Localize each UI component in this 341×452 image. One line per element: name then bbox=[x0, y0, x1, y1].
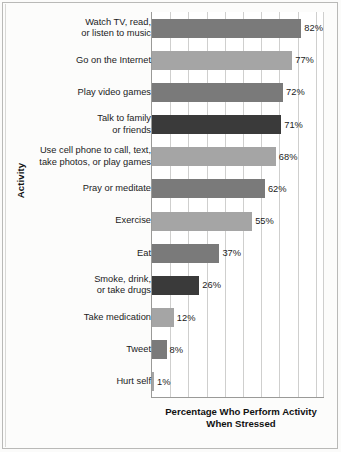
category-label: Play video games bbox=[31, 87, 151, 98]
category-label: Hurt self bbox=[31, 376, 151, 387]
category-label-line-1: Eat bbox=[31, 248, 151, 259]
bar bbox=[152, 276, 199, 295]
category-label-line-1: Take medication bbox=[31, 312, 151, 323]
category-label: Use cell phone to call, text,take photos… bbox=[31, 145, 151, 168]
category-label-line-1: Use cell phone to call, text, bbox=[31, 145, 151, 156]
category-label-line-1: Go on the Internet bbox=[31, 55, 151, 66]
category-label-line-2: or take drugs bbox=[31, 285, 151, 296]
bar-row: Tweet8% bbox=[0, 334, 341, 366]
bar-value-label: 26% bbox=[202, 280, 221, 290]
bar-value-label: 77% bbox=[295, 55, 314, 65]
category-label-line-2: or listen to music bbox=[31, 28, 151, 39]
bar bbox=[152, 212, 252, 231]
category-label: Take medication bbox=[31, 312, 151, 323]
bar bbox=[152, 147, 276, 166]
bar-group: 8% bbox=[152, 340, 183, 359]
bar-group: 12% bbox=[152, 308, 195, 327]
category-label-line-1: Smoke, drink, bbox=[31, 274, 151, 285]
category-label: Talk to familyor friends bbox=[31, 113, 151, 136]
bar-group: 55% bbox=[152, 212, 274, 231]
bar-chart-figure: Watch TV, read,or listen to music82%Go o… bbox=[0, 0, 341, 452]
category-label: Eat bbox=[31, 248, 151, 259]
bar-row: Use cell phone to call, text,take photos… bbox=[0, 141, 341, 173]
category-label-line-1: Talk to family bbox=[31, 113, 151, 124]
bar bbox=[152, 372, 154, 391]
bar-value-label: 82% bbox=[304, 23, 323, 33]
bar bbox=[152, 244, 219, 263]
bar-row: Smoke, drink,or take drugs26% bbox=[0, 269, 341, 301]
bar-group: 71% bbox=[152, 115, 303, 134]
bar-group: 26% bbox=[152, 276, 221, 295]
bar-group: 77% bbox=[152, 51, 314, 70]
bar-value-label: 68% bbox=[279, 152, 298, 162]
bar-group: 82% bbox=[152, 19, 323, 38]
bar-group: 37% bbox=[152, 244, 241, 263]
bar bbox=[152, 19, 301, 38]
category-label-line-1: Pray or meditate bbox=[31, 183, 151, 194]
bar-group: 1% bbox=[152, 372, 170, 391]
category-label: Exercise bbox=[31, 215, 151, 226]
bar-value-label: 37% bbox=[222, 248, 241, 258]
bar-group: 72% bbox=[152, 83, 305, 102]
bar-value-label: 1% bbox=[157, 377, 170, 387]
x-axis-title-line-1: Percentage Who Perform Activity bbox=[165, 406, 317, 417]
bar-row: Hurt self1% bbox=[0, 366, 341, 398]
category-label: Pray or meditate bbox=[31, 183, 151, 194]
bar bbox=[152, 83, 283, 102]
bar bbox=[152, 51, 292, 70]
category-label-line-1: Hurt self bbox=[31, 376, 151, 387]
x-axis-title-line-2: When Stressed bbox=[151, 418, 331, 430]
bar bbox=[152, 179, 265, 198]
bar-group: 62% bbox=[152, 179, 287, 198]
x-axis-title: Percentage Who Perform Activity When Str… bbox=[151, 406, 331, 431]
category-label-line-1: Watch TV, read, bbox=[31, 17, 151, 28]
bar-row: Pray or meditate62% bbox=[0, 173, 341, 205]
category-label-line-1: Play video games bbox=[31, 87, 151, 98]
bar-rows: Watch TV, read,or listen to music82%Go o… bbox=[0, 12, 341, 398]
bar-row: Play video games72% bbox=[0, 76, 341, 108]
category-label: Tweet bbox=[31, 344, 151, 355]
category-label-line-1: Tweet bbox=[31, 344, 151, 355]
bar-row: Take medication12% bbox=[0, 302, 341, 334]
bar-row: Watch TV, read,or listen to music82% bbox=[0, 12, 341, 44]
bar bbox=[152, 115, 281, 134]
bar-value-label: 71% bbox=[284, 120, 303, 130]
bar-value-label: 12% bbox=[177, 313, 196, 323]
bar-group: 68% bbox=[152, 147, 297, 166]
category-label: Go on the Internet bbox=[31, 55, 151, 66]
category-label-line-1: Exercise bbox=[31, 215, 151, 226]
bar bbox=[152, 308, 174, 327]
category-label-line-2: take photos, or play games bbox=[31, 157, 151, 168]
category-label: Watch TV, read,or listen to music bbox=[31, 17, 151, 40]
category-label: Smoke, drink,or take drugs bbox=[31, 274, 151, 297]
bar-row: Go on the Internet77% bbox=[0, 44, 341, 76]
y-axis-title: Activity bbox=[15, 141, 26, 221]
category-label-line-2: or friends bbox=[31, 125, 151, 136]
bar-row: Eat37% bbox=[0, 237, 341, 269]
bar-value-label: 62% bbox=[268, 184, 287, 194]
bar-row: Exercise55% bbox=[0, 205, 341, 237]
bar-value-label: 72% bbox=[286, 87, 305, 97]
bar bbox=[152, 340, 167, 359]
bar-value-label: 8% bbox=[170, 345, 183, 355]
bar-value-label: 55% bbox=[255, 216, 274, 226]
bar-row: Talk to familyor friends71% bbox=[0, 109, 341, 141]
